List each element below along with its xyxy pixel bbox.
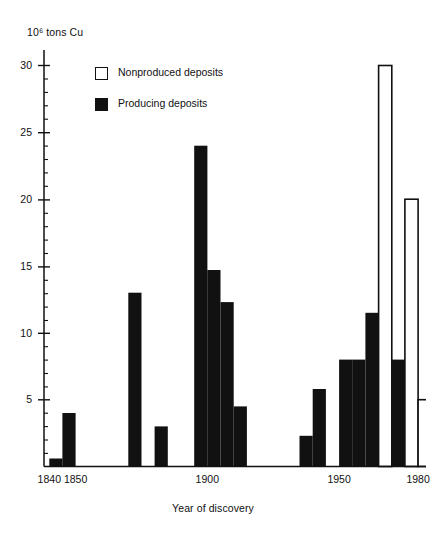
y-tick-label-20: 20 [6, 193, 32, 205]
bar-producing-1910 [234, 406, 247, 466]
y-tick-label-15: 15 [6, 260, 32, 272]
y-tick-label-10: 10 [6, 327, 32, 339]
legend-swatch-producing-icon [95, 98, 108, 111]
bar-producing-1900 [207, 270, 220, 467]
plot-bars-producing [49, 146, 405, 467]
bar-producing-1905 [221, 302, 234, 466]
legend-label-nonproduced: Nonproduced deposits [118, 66, 223, 78]
bar-producing-1840 [49, 459, 62, 467]
bar-producing-1870 [128, 293, 141, 467]
legend-label-producing: Producing deposits [118, 97, 207, 109]
x-tick-label-1900: 1900 [189, 473, 225, 485]
bar-producing-1960 [365, 313, 378, 467]
bar-producing-1880 [155, 426, 168, 466]
bar-producing-1845 [62, 413, 75, 467]
bar-producing-1940 [313, 389, 326, 467]
y-tick-label-5: 5 [6, 393, 32, 405]
bar-nonproduced-1975 [405, 199, 418, 466]
bar-producing-1935 [300, 436, 313, 467]
legend-swatch-nonproduced-icon [95, 67, 108, 80]
bar-producing-1970 [392, 360, 405, 467]
x-axis-title: Year of discovery [0, 502, 426, 514]
x-tick-label-1950: 1950 [321, 473, 357, 485]
x-tick-label-1980: 1980 [400, 473, 435, 485]
y-tick-label-25: 25 [6, 126, 32, 138]
x-tick-label-1850: 1850 [58, 473, 94, 485]
bar-nonproduced-1980 [418, 400, 426, 467]
bar-producing-1950 [339, 360, 352, 467]
y-tick-label-30: 30 [6, 59, 32, 71]
bar-producing-1895 [194, 146, 207, 467]
bar-nonproduced-1965 [379, 66, 392, 467]
bar-producing-1955 [352, 360, 365, 467]
